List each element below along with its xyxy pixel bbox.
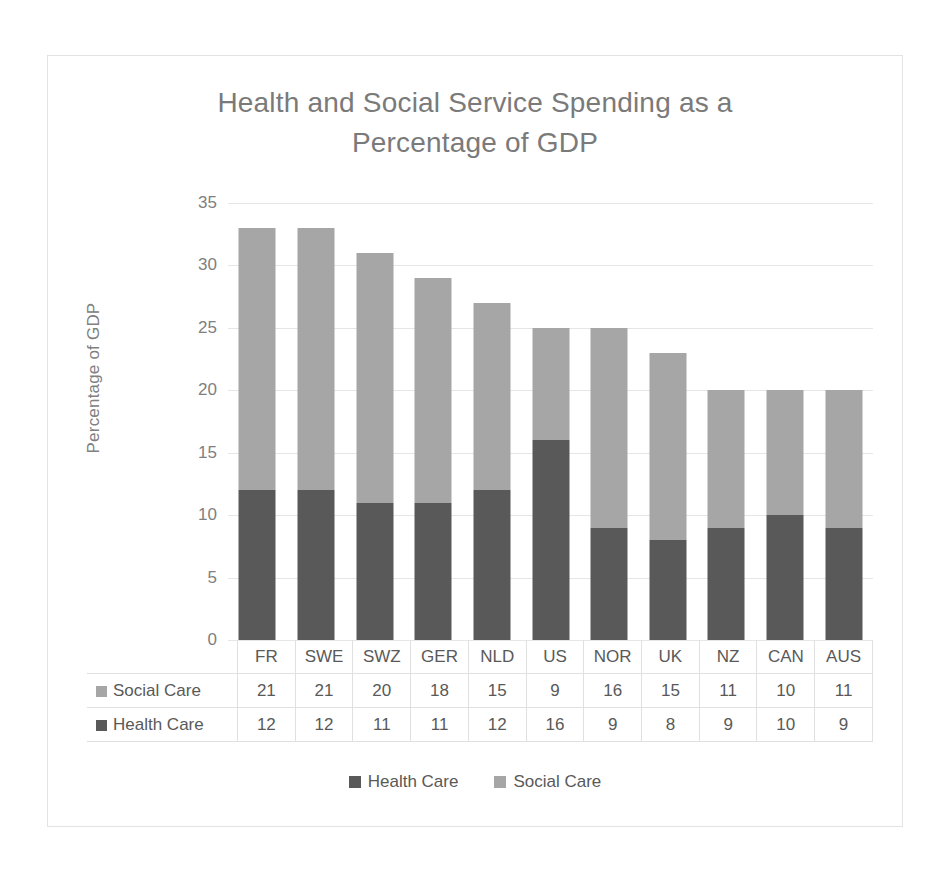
bar-segment-social-care[interactable]: [532, 328, 569, 440]
bar-segment-health-care[interactable]: [708, 528, 745, 640]
stacked-bar[interactable]: [532, 328, 569, 640]
bar-segment-social-care[interactable]: [297, 228, 334, 490]
table-cell-health-care-uk: 8: [642, 708, 700, 742]
bar-segment-social-care[interactable]: [415, 278, 452, 503]
bar-segment-health-care[interactable]: [239, 490, 276, 640]
bar-segment-health-care[interactable]: [532, 440, 569, 640]
legend-item-social-care[interactable]: Social Care: [494, 772, 601, 792]
y-axis-tick-label: 30: [198, 255, 217, 275]
bar-segment-social-care[interactable]: [591, 328, 628, 528]
bar-segment-health-care[interactable]: [649, 540, 686, 640]
table-cell-health-care-aus: 9: [815, 708, 873, 742]
table-cell-health-care-swe: 12: [295, 708, 353, 742]
table-cell-social-care-us: 9: [526, 674, 584, 708]
y-axis-tick-label: 10: [198, 505, 217, 525]
stacked-bar[interactable]: [239, 228, 276, 640]
stacked-bar[interactable]: [473, 303, 510, 640]
bar-slot-ger: [404, 203, 463, 640]
category-label-swz: SWZ: [353, 640, 411, 674]
category-label-us: US: [526, 640, 584, 674]
bar-segment-health-care[interactable]: [473, 490, 510, 640]
series-swatch-icon: [96, 686, 107, 697]
table-row-social-care: Social Care212120181591615111011: [87, 674, 873, 708]
table-cell-social-care-swz: 20: [353, 674, 411, 708]
table-cell-social-care-aus: 11: [815, 674, 873, 708]
table-cell-social-care-fr: 21: [238, 674, 296, 708]
bar-segment-social-care[interactable]: [767, 390, 804, 515]
table-cell-social-care-nz: 11: [699, 674, 757, 708]
stacked-bar[interactable]: [356, 253, 393, 640]
bar-segment-health-care[interactable]: [356, 503, 393, 640]
bar-slot-can: [756, 203, 815, 640]
series-swatch-icon: [96, 720, 107, 731]
chart-title-line-2: Percentage of GDP: [48, 123, 902, 163]
y-axis-tick-label: 25: [198, 318, 217, 338]
category-label-ger: GER: [411, 640, 469, 674]
bar-segment-health-care[interactable]: [591, 528, 628, 640]
y-axis-title: Percentage of GDP: [84, 238, 104, 518]
stacked-bar[interactable]: [591, 328, 628, 640]
table-cell-health-care-ger: 11: [411, 708, 469, 742]
bar-segment-health-care[interactable]: [767, 515, 804, 640]
chart-legend: Health CareSocial Care: [48, 772, 902, 792]
bar-segment-health-care[interactable]: [825, 528, 862, 640]
legend-label: Health Care: [368, 772, 459, 792]
stacked-bar[interactable]: [415, 278, 452, 640]
table-cell-health-care-nz: 9: [699, 708, 757, 742]
stacked-bar[interactable]: [767, 390, 804, 640]
bar-slot-fr: [228, 203, 287, 640]
stacked-bar[interactable]: [649, 353, 686, 640]
table-cell-health-care-nor: 9: [584, 708, 642, 742]
bar-segment-social-care[interactable]: [649, 353, 686, 540]
legend-swatch-icon: [349, 776, 361, 788]
bar-slot-aus: [814, 203, 873, 640]
category-label-can: CAN: [757, 640, 815, 674]
bar-slot-us: [521, 203, 580, 640]
table-row-health-care: Health Care121211111216989109: [87, 708, 873, 742]
category-label-nor: NOR: [584, 640, 642, 674]
table-row-header-social-care: Social Care: [87, 674, 238, 708]
legend-item-health-care[interactable]: Health Care: [349, 772, 459, 792]
category-label-fr: FR: [238, 640, 296, 674]
bar-slot-uk: [638, 203, 697, 640]
bar-segment-social-care[interactable]: [825, 390, 862, 527]
table-cell-social-care-nld: 15: [468, 674, 526, 708]
chart-title-line-1: Health and Social Service Spending as a: [48, 83, 902, 123]
bar-slot-nor: [580, 203, 639, 640]
stacked-bar[interactable]: [825, 390, 862, 640]
table-cell-health-care-us: 16: [526, 708, 584, 742]
table-cell-health-care-can: 10: [757, 708, 815, 742]
legend-label: Social Care: [513, 772, 601, 792]
table-row-categories: FRSWESWZGERNLDUSNORUKNZCANAUS: [87, 640, 873, 674]
bar-slot-swz: [345, 203, 404, 640]
chart-title: Health and Social Service Spending as a …: [48, 83, 902, 163]
category-label-swe: SWE: [295, 640, 353, 674]
data-table: FRSWESWZGERNLDUSNORUKNZCANAUSSocial Care…: [87, 640, 873, 742]
bar-series-layer: [228, 203, 873, 640]
bar-segment-social-care[interactable]: [356, 253, 393, 503]
bar-segment-social-care[interactable]: [239, 228, 276, 490]
category-label-uk: UK: [642, 640, 700, 674]
table-cell-social-care-nor: 16: [584, 674, 642, 708]
plot-area: 35302520151050: [228, 203, 873, 640]
bar-slot-nz: [697, 203, 756, 640]
stacked-bar[interactable]: [297, 228, 334, 640]
table-cell-health-care-fr: 12: [238, 708, 296, 742]
category-label-nz: NZ: [699, 640, 757, 674]
stacked-bar[interactable]: [708, 390, 745, 640]
category-label-aus: AUS: [815, 640, 873, 674]
category-label-nld: NLD: [468, 640, 526, 674]
bar-segment-social-care[interactable]: [708, 390, 745, 527]
series-name-label: Social Care: [113, 681, 201, 700]
chart-container: Health and Social Service Spending as a …: [47, 55, 903, 827]
table-cell-social-care-can: 10: [757, 674, 815, 708]
table-row-header-health-care: Health Care: [87, 708, 238, 742]
bar-segment-health-care[interactable]: [297, 490, 334, 640]
y-axis-tick-label: 5: [208, 568, 217, 588]
series-name-label: Health Care: [113, 715, 204, 734]
y-axis-tick-label: 35: [198, 193, 217, 213]
bar-segment-social-care[interactable]: [473, 303, 510, 490]
legend-swatch-icon: [494, 776, 506, 788]
bar-segment-health-care[interactable]: [415, 503, 452, 640]
table-corner-cell: [87, 640, 238, 674]
